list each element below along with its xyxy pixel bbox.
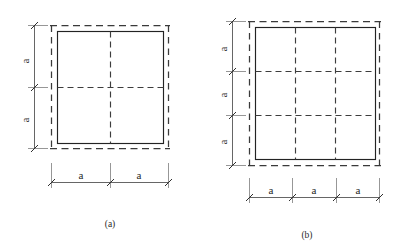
panel-a-vertical-label-1: a bbox=[19, 58, 31, 63]
figure-container: a a a a (a) bbox=[0, 0, 418, 247]
panel-a-caption: (a) bbox=[105, 219, 116, 230]
panel-b-vertical-label-1: a bbox=[217, 46, 229, 51]
panel-b-grid-lines bbox=[256, 28, 376, 160]
panel-a-vertical-label-2: a bbox=[19, 117, 31, 122]
panel-a-group: a a a a (a) bbox=[19, 22, 172, 230]
panel-b-vertical-label-2: a bbox=[217, 92, 229, 97]
panel-a-vertical-dimension bbox=[28, 22, 48, 152]
panel-a-horizontal-label-2: a bbox=[137, 169, 142, 181]
panel-a-horizontal-label-1: a bbox=[79, 169, 84, 181]
panel-b-horizontal-label-1: a bbox=[269, 184, 274, 196]
panel-b-caption: (b) bbox=[301, 230, 312, 241]
panel-a-grid-lines bbox=[58, 32, 164, 144]
panel-b-dashed-outline bbox=[248, 22, 381, 166]
panel-b-vertical-label-3: a bbox=[217, 139, 229, 144]
panel-b-horizontal-label-3: a bbox=[356, 184, 361, 196]
panel-b-group: a a a a a a (b) bbox=[217, 18, 383, 241]
panel-b-solid-square bbox=[256, 28, 376, 160]
panel-b-horizontal-label-2: a bbox=[312, 184, 317, 196]
panel-a-horizontal-dimension bbox=[48, 163, 172, 188]
diagram-canvas: a a a a (a) bbox=[0, 0, 418, 247]
panel-b-vertical-dimension bbox=[226, 18, 246, 169]
